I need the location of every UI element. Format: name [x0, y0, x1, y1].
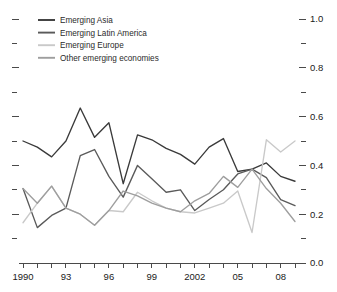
plot-area — [23, 108, 295, 232]
y-axis-tick-label: 0.0 — [310, 257, 323, 268]
x-axis-tick-label: 96 — [104, 271, 115, 282]
chart-container: 199093969920020508 0.00.20.40.60.81.0 Em… — [0, 0, 337, 292]
series-group — [23, 108, 295, 232]
legend-label: Emerging Europe — [60, 41, 124, 50]
x-axis-tick-label: 05 — [232, 271, 243, 282]
legend-label: Emerging Latin America — [60, 29, 147, 38]
y-axis-right: 0.00.20.40.60.81.0 — [299, 13, 323, 268]
y-axis-left — [12, 19, 19, 239]
y-axis-tick-label: 1.0 — [310, 13, 323, 24]
legend-label: Other emerging economies — [60, 54, 159, 63]
line-chart: 199093969920020508 0.00.20.40.60.81.0 Em… — [0, 0, 337, 292]
x-axis-tick-label: 99 — [147, 271, 158, 282]
legend-label: Emerging Asia — [60, 16, 113, 25]
x-axis-tick-label: 1990 — [12, 271, 33, 282]
chart-legend: Emerging AsiaEmerging Latin AmericaEmerg… — [38, 16, 159, 63]
x-axis-tick-label: 2002 — [184, 271, 205, 282]
x-axis: 199093969920020508 — [12, 263, 299, 282]
y-axis-tick-label: 0.4 — [310, 160, 323, 171]
x-axis-tick-label: 93 — [61, 271, 72, 282]
y-axis-tick-label: 0.6 — [310, 111, 323, 122]
y-axis-tick-label: 0.8 — [310, 62, 323, 73]
y-axis-tick-label: 0.2 — [310, 209, 323, 220]
x-axis-tick-label: 08 — [275, 271, 286, 282]
